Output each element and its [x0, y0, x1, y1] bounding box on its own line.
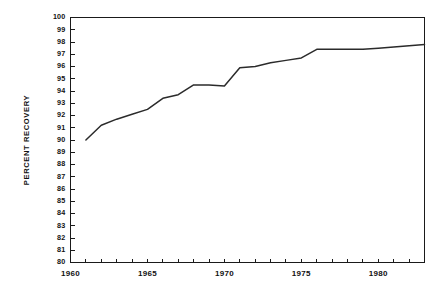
y-tick-label: 84 [57, 208, 65, 217]
percent-recovery-line-chart: PERCENT RECOVERY 10099989796959493929190… [0, 0, 437, 294]
y-tick-label: 83 [57, 221, 65, 230]
y-tick-label: 99 [57, 25, 65, 34]
y-tick-label: 86 [57, 184, 65, 193]
y-tick-label: 98 [57, 37, 65, 46]
y-tick-label: 96 [57, 61, 65, 70]
y-axis-ticks: 1009998979695949392919089888786858483828… [53, 12, 75, 266]
y-tick-label: 97 [57, 49, 65, 58]
x-tick-label: 1960 [61, 269, 80, 278]
y-axis-title: PERCENT RECOVERY [22, 95, 31, 185]
y-tick-label: 92 [57, 110, 65, 119]
y-tick-label: 80 [57, 257, 65, 266]
y-tick-label: 89 [57, 147, 65, 156]
y-tick-label: 95 [57, 74, 65, 83]
y-tick-label: 93 [57, 98, 65, 107]
x-tick-label: 1970 [215, 269, 234, 278]
y-axis-title-group: PERCENT RECOVERY [22, 95, 31, 185]
y-tick-label: 87 [57, 172, 65, 181]
y-tick-label: 82 [57, 233, 65, 242]
y-tick-label: 85 [57, 196, 65, 205]
x-tick-label: 1980 [369, 269, 388, 278]
data-line-percent-recovery [86, 44, 425, 140]
y-tick-label: 91 [57, 123, 65, 132]
y-tick-label: 94 [57, 86, 65, 95]
y-tick-label: 90 [57, 135, 65, 144]
x-tick-label: 1965 [138, 269, 157, 278]
chart-container: PERCENT RECOVERY 10099989796959493929190… [0, 0, 437, 294]
axis-frame-rect [71, 18, 425, 263]
y-tick-label: 100 [53, 12, 66, 21]
y-tick-label: 88 [57, 159, 65, 168]
data-series-group [86, 44, 425, 140]
x-axis-ticks: 19601965197019751980 [61, 259, 425, 278]
plot-frame [71, 18, 425, 263]
y-tick-label: 81 [57, 245, 65, 254]
x-tick-label: 1975 [292, 269, 311, 278]
